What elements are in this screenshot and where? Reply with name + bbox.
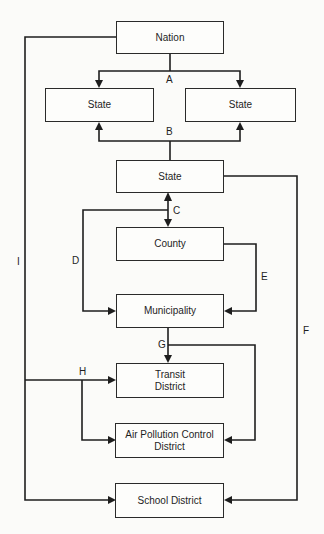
node-state-left-label: State (88, 99, 111, 111)
node-state-right: State (185, 88, 296, 122)
node-air-pollution-control-district: Air Pollution Control District (115, 423, 224, 458)
edge-label-a: A (166, 75, 173, 85)
node-state-center-label: State (158, 171, 181, 183)
node-state-right-label: State (229, 99, 252, 111)
node-nation: Nation (116, 21, 224, 54)
node-transit-label-line1: Transit (155, 369, 185, 381)
node-municipality: Municipality (116, 294, 224, 328)
diagram-canvas: Nation State State State County Municipa… (0, 0, 324, 534)
edge-label-d: D (72, 256, 79, 266)
node-transit-label-line2: District (155, 381, 186, 393)
edge-f (224, 176, 297, 504)
node-municipality-label: Municipality (144, 305, 196, 317)
node-school-label: School District (138, 495, 202, 507)
node-county: County (116, 227, 224, 261)
edge-label-g: G (158, 340, 166, 350)
node-county-label: County (154, 238, 186, 250)
node-school-district: School District (115, 483, 224, 518)
node-nation-label: Nation (156, 32, 185, 44)
edge-label-e: E (261, 272, 268, 282)
edge-label-b: B (166, 127, 173, 137)
edge-label-i: I (17, 257, 20, 267)
node-state-left: State (45, 88, 154, 122)
edge-label-f: F (303, 326, 309, 336)
edge-h (25, 376, 116, 444)
node-state-center: State (116, 160, 224, 193)
edge-label-c: C (173, 206, 180, 216)
node-air-label-line1: Air Pollution Control (125, 429, 213, 441)
edge-e (224, 244, 256, 315)
edge-label-h: H (79, 367, 86, 377)
node-air-label-line2: District (154, 441, 185, 453)
node-transit-district: Transit District (116, 363, 224, 398)
